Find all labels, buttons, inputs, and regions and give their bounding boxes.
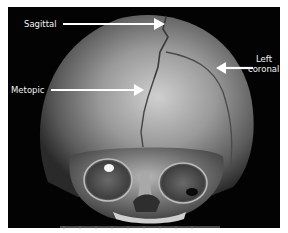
left-coronal-label-line1: Left xyxy=(256,54,272,64)
metopic-label: Metopic xyxy=(11,85,45,95)
scale-bar xyxy=(60,226,220,230)
left-coronal-label-line2: coronal xyxy=(248,64,279,74)
skull-rendering xyxy=(8,7,280,228)
sagittal-label: Sagittal xyxy=(24,19,57,29)
ct-image-panel: Sagittal Metopic Left coronal xyxy=(8,7,280,228)
left-orbit xyxy=(159,163,207,203)
